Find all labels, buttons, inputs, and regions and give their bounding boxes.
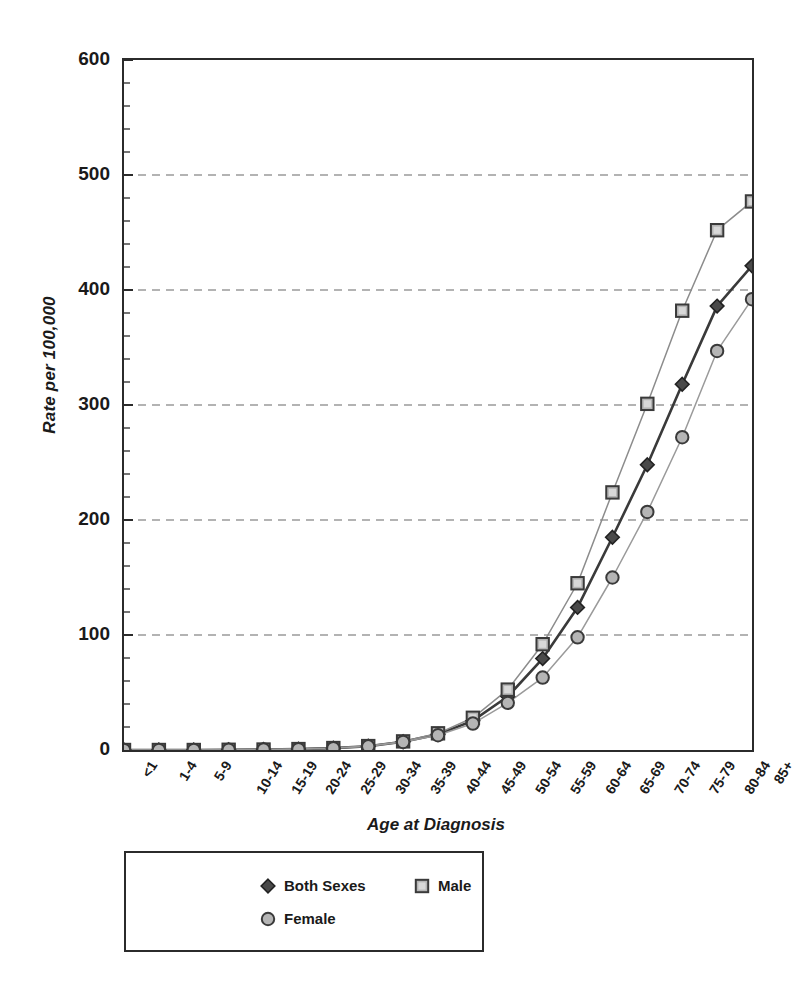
legend-glyph bbox=[261, 879, 275, 893]
x-tick-1-4: 1-4 bbox=[175, 758, 199, 784]
marker-square-inner bbox=[418, 882, 425, 889]
legend-glyph bbox=[262, 912, 274, 924]
x-tick-75-79: 75-79 bbox=[706, 758, 739, 797]
legend-item-female[interactable]: Female bbox=[260, 910, 336, 927]
legend-glyph bbox=[416, 879, 428, 891]
x-tick-10-14: 10-14 bbox=[252, 758, 285, 797]
x-tick-15-19: 15-19 bbox=[287, 758, 320, 797]
open-square-icon bbox=[414, 878, 430, 894]
legend-label-female: Female bbox=[284, 910, 336, 927]
legend-item-both-sexes[interactable]: Both Sexes bbox=[260, 877, 366, 894]
x-tick-65-69: 65-69 bbox=[636, 758, 669, 797]
x-tick-80-84: 80-84 bbox=[741, 758, 774, 797]
x-tick-40-44: 40-44 bbox=[462, 758, 495, 797]
legend-item-male[interactable]: Male bbox=[414, 877, 471, 894]
legend-label-both-sexes: Both Sexes bbox=[284, 877, 366, 894]
open-circle-icon bbox=[260, 911, 276, 927]
x-tick-45-49: 45-49 bbox=[497, 758, 530, 797]
x-tick-30-34: 30-34 bbox=[392, 758, 425, 797]
marker-filled-diamond bbox=[261, 879, 275, 893]
x-axis-tick-labels: <11-45-910-1415-1920-2425-2930-3435-3940… bbox=[0, 0, 802, 991]
chart-legend: Both Sexes Male Female bbox=[124, 851, 484, 952]
x-tick-25-29: 25-29 bbox=[357, 758, 390, 797]
x-tick-35-39: 35-39 bbox=[427, 758, 460, 797]
x-tick-60-64: 60-64 bbox=[601, 758, 634, 797]
x-tick-lt1: <1 bbox=[139, 758, 161, 780]
chart-figure: Rate per 100,000 6005004003002001000 <11… bbox=[0, 0, 802, 991]
filled-diamond-icon bbox=[260, 878, 276, 894]
x-tick-70-74: 70-74 bbox=[671, 758, 704, 797]
x-tick-55-59: 55-59 bbox=[566, 758, 599, 797]
x-tick-85plus: 85+ bbox=[770, 758, 796, 787]
x-tick-50-54: 50-54 bbox=[532, 758, 565, 797]
legend-label-male: Male bbox=[438, 877, 471, 894]
marker-open-circle bbox=[262, 912, 274, 924]
x-tick-20-24: 20-24 bbox=[322, 758, 355, 797]
x-tick-5-9: 5-9 bbox=[210, 758, 234, 784]
x-axis-title: Age at Diagnosis bbox=[122, 815, 750, 835]
